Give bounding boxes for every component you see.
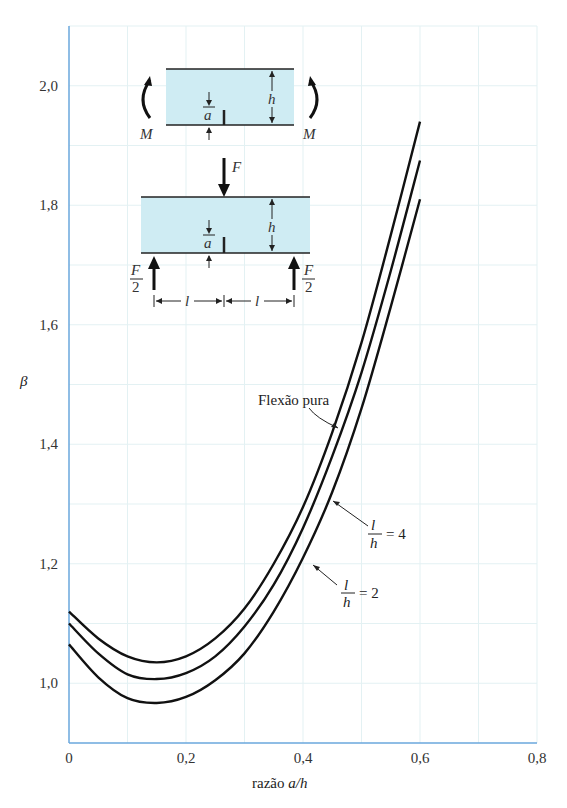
chart: 00,20,40,60,8 1,01,21,41,61,82,0 razão a… — [0, 0, 567, 808]
svg-text:2: 2 — [132, 279, 140, 295]
svg-text:l: l — [344, 577, 348, 593]
svg-text:M: M — [139, 126, 154, 142]
y-tick-labels: 1,01,21,41,61,82,0 — [39, 78, 58, 692]
y-tick-label: 1,6 — [39, 317, 58, 333]
x-tick-labels: 00,20,40,60,8 — [65, 750, 546, 766]
x-tick-label: 0,6 — [411, 750, 430, 766]
y-tick-label: 1,0 — [39, 675, 58, 691]
x-tick-label: 0,2 — [177, 750, 196, 766]
svg-text:a: a — [204, 107, 212, 123]
y-tick-label: 1,8 — [39, 197, 58, 213]
svg-text:F: F — [130, 262, 141, 278]
y-tick-label: 1,2 — [39, 556, 58, 572]
inset-three-point-bending-diagram: F a h F 2 F 2 l l — [130, 158, 315, 309]
x-tick-label: 0,8 — [528, 750, 547, 766]
svg-text:2: 2 — [305, 279, 313, 295]
svg-text:M: M — [302, 126, 317, 142]
annotation-flexao-pura: Flexão pura — [258, 392, 338, 428]
svg-text:h: h — [268, 219, 276, 235]
x-tick-label: 0 — [65, 750, 73, 766]
svg-text:F: F — [303, 262, 314, 278]
svg-text:a: a — [204, 235, 212, 251]
svg-text:h: h — [370, 535, 378, 551]
svg-text:h: h — [268, 91, 276, 107]
annotation-l-h-2: l h = 2 — [313, 565, 379, 610]
y-tick-label: 1,4 — [39, 436, 58, 452]
svg-text:F: F — [231, 159, 242, 175]
x-tick-label: 0,4 — [294, 750, 313, 766]
svg-text:h: h — [343, 594, 351, 610]
svg-text:= 4: = 4 — [386, 526, 406, 542]
svg-text:l: l — [255, 293, 259, 309]
svg-text:Flexão pura: Flexão pura — [258, 392, 330, 408]
y-axis-label: β — [19, 373, 28, 389]
annotation-l-h-4: l h = 4 — [333, 501, 406, 551]
y-tick-label: 2,0 — [39, 78, 58, 94]
svg-text:l: l — [185, 293, 189, 309]
inset-pure-bending-diagram: a h M M — [139, 69, 317, 142]
x-axis-label: razão a/h — [252, 775, 307, 791]
svg-text:l: l — [371, 517, 375, 533]
svg-text:= 2: = 2 — [359, 585, 379, 601]
